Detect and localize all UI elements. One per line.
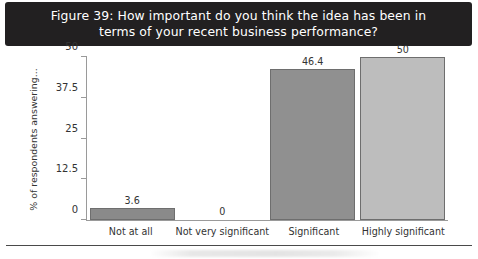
y-axis-title-label: % of respondents answering... <box>28 68 39 210</box>
figure-container: Figure 39: How important do you think th… <box>0 0 478 259</box>
bar-series: 3.6046.450 <box>87 57 448 220</box>
bar[interactable]: 46.4 <box>270 69 355 220</box>
footer-artifact <box>150 250 380 257</box>
y-axis-tick-label: 50 <box>65 41 78 52</box>
page-divider-rule <box>6 245 472 246</box>
y-axis-tick-label: 12.5 <box>56 163 78 174</box>
y-axis-tick <box>81 178 87 179</box>
x-axis-category-label: Highly significant <box>359 226 448 237</box>
bar-slot: 0 <box>177 57 267 220</box>
x-axis-category-label: Not at all <box>86 226 175 237</box>
bar-value-label: 50 <box>397 44 409 55</box>
x-axis-category-label: Significant <box>269 226 358 237</box>
bar-value-label: 46.4 <box>302 56 323 67</box>
x-axis-category-label: Not very significant <box>175 226 269 237</box>
figure-title-banner: Figure 39: How important do you think th… <box>5 2 472 46</box>
y-axis-tick-label: 0 <box>72 204 78 215</box>
bar-slot: 50 <box>358 57 448 220</box>
x-axis-category-labels: Not at allNot very significantSignifican… <box>86 226 448 237</box>
bar-value-label: 0 <box>219 206 225 217</box>
plot-area: 3.6046.450 012.52537.550 <box>86 57 448 221</box>
y-axis-title: % of respondents answering... <box>26 57 40 221</box>
bar-value-label: 3.6 <box>124 195 139 206</box>
y-axis-tick <box>81 219 87 220</box>
bar-slot: 46.4 <box>268 57 358 220</box>
y-axis-tick-label: 37.5 <box>56 81 78 92</box>
y-axis-tick <box>81 97 87 98</box>
bar-slot: 3.6 <box>87 57 177 220</box>
page-title: Figure 39: How important do you think th… <box>31 8 446 40</box>
y-axis-tick <box>81 56 87 57</box>
y-axis-tick <box>81 138 87 139</box>
y-axis-tick-label: 25 <box>65 122 78 133</box>
bar[interactable]: 3.6 <box>90 208 175 220</box>
bar[interactable]: 50 <box>360 57 445 220</box>
